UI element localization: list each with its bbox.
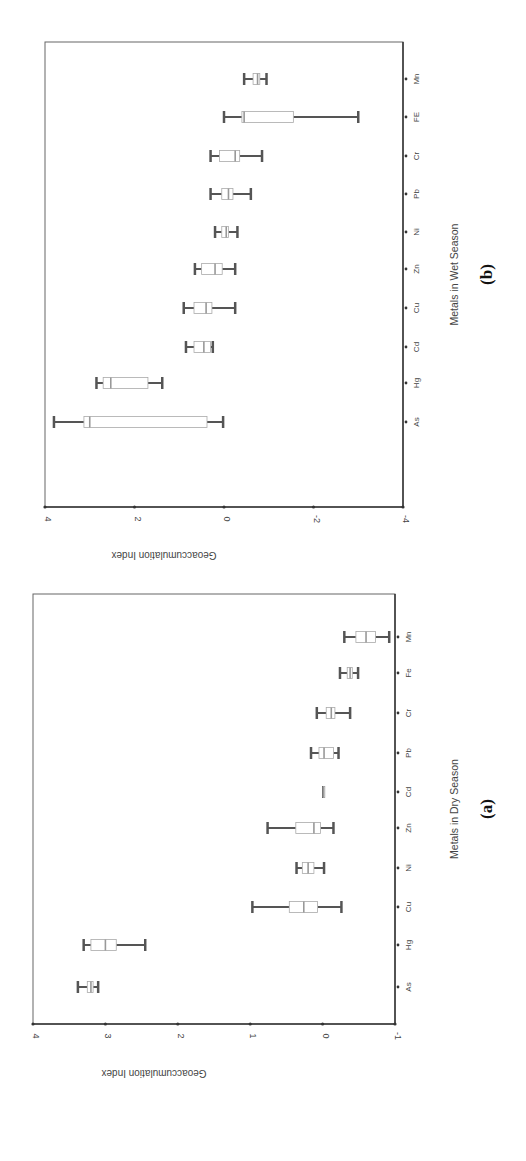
- value-tick: [401, 505, 404, 508]
- box-mn: [244, 73, 266, 85]
- category-label-cu: Cu: [404, 902, 413, 912]
- category-label-cd: Cd: [412, 342, 421, 352]
- category-tick: [397, 791, 400, 794]
- category-tick: [397, 752, 400, 755]
- value-tick-label: 4: [43, 516, 53, 521]
- box-zn: [195, 263, 235, 275]
- value-tick: [133, 505, 136, 508]
- category-label-pb: Pb: [404, 748, 413, 758]
- value-tick: [104, 1022, 107, 1025]
- category-label-zn: Zn: [404, 823, 413, 832]
- value-tick: [176, 1022, 179, 1025]
- value-tick: [31, 1022, 34, 1025]
- box-zn: [268, 822, 334, 834]
- value-tick: [312, 505, 315, 508]
- x-axis-title: Metals in Dry Season: [448, 759, 460, 859]
- value-tick-label: -2: [312, 515, 322, 523]
- box-fe: [340, 667, 358, 679]
- category-label-cu: Cu: [412, 303, 421, 313]
- category-tick: [405, 231, 408, 234]
- value-tick-label: 1: [248, 1033, 258, 1038]
- category-tick: [405, 268, 408, 271]
- category-label-hg: Hg: [412, 378, 421, 388]
- category-tick: [397, 906, 400, 909]
- category-tick: [397, 867, 400, 870]
- category-label-ni: Ni: [412, 228, 421, 236]
- box-cu: [252, 901, 341, 913]
- value-tick-label: 2: [176, 1033, 186, 1038]
- category-tick: [397, 827, 400, 830]
- value-tick: [222, 505, 225, 508]
- category-label-cr: Cr: [404, 708, 413, 717]
- box-fe: [224, 111, 358, 123]
- box-cr: [317, 707, 350, 719]
- category-label-pb: Pb: [412, 189, 421, 199]
- category-tick: [405, 193, 408, 196]
- category-tick: [397, 944, 400, 947]
- category-label-cd: Cd: [404, 787, 413, 797]
- box-mn: [344, 631, 389, 643]
- category-label-zn: Zn: [412, 264, 421, 273]
- category-label-hg: Hg: [404, 940, 413, 950]
- category-label-fe: FE: [412, 112, 421, 122]
- category-label-mn: Mn: [404, 631, 413, 642]
- category-label-cr: Cr: [412, 151, 421, 160]
- y-axis-title: Geoaccumulation Index: [101, 1068, 206, 1079]
- chart-panel-b: 420-2-4Geoaccumulation IndexAsHgCdCuZnNi…: [43, 42, 496, 561]
- box-hg: [96, 377, 162, 389]
- value-tick-label: -4: [401, 515, 411, 523]
- category-label-mn: Mn: [412, 73, 421, 84]
- category-label-fe: Fe: [404, 668, 413, 678]
- value-tick: [393, 1022, 396, 1025]
- box-ni: [215, 226, 237, 238]
- panel-label: (b): [477, 264, 496, 285]
- value-tick-label: 0: [222, 516, 232, 521]
- category-tick: [397, 672, 400, 675]
- category-tick: [405, 307, 408, 310]
- box-as: [54, 416, 223, 428]
- value-tick-label: 0: [321, 1033, 331, 1038]
- box-cd: [323, 786, 325, 798]
- box-cd: [186, 341, 213, 353]
- category-tick: [405, 155, 408, 158]
- value-tick: [249, 1022, 252, 1025]
- box-pb: [311, 747, 339, 759]
- value-tick-label: -1: [393, 1032, 403, 1040]
- category-tick: [405, 346, 408, 349]
- box-ni: [297, 862, 325, 874]
- value-tick-label: 4: [31, 1033, 41, 1038]
- x-axis-title: Metals in Wet Season: [448, 223, 460, 325]
- value-tick-label: 3: [103, 1033, 113, 1038]
- panel-label: (a): [477, 799, 496, 819]
- category-label-ni: Ni: [404, 864, 413, 872]
- category-tick: [405, 421, 408, 424]
- category-tick: [397, 986, 400, 989]
- category-tick: [405, 78, 408, 81]
- chart-panel-a: 43210-1Geoaccumulation IndexAsHgCuNiZnCd…: [31, 594, 496, 1079]
- box-hg: [84, 939, 146, 951]
- category-tick: [405, 116, 408, 119]
- category-label-as: As: [404, 982, 413, 991]
- plot-frame: [33, 594, 395, 1024]
- value-tick-label: 2: [133, 516, 143, 521]
- category-label-as: As: [412, 417, 421, 426]
- box-cr: [211, 150, 262, 162]
- category-tick: [405, 382, 408, 385]
- box-cu: [184, 302, 235, 314]
- value-tick: [321, 1022, 324, 1025]
- figure-canvas: 43210-1Geoaccumulation IndexAsHgCuNiZnCd…: [0, 0, 526, 1161]
- category-tick: [397, 636, 400, 639]
- box-as: [78, 981, 98, 993]
- category-tick: [397, 712, 400, 715]
- value-tick: [43, 505, 46, 508]
- y-axis-title: Geoaccumulation Index: [111, 550, 216, 561]
- box-pb: [211, 188, 251, 200]
